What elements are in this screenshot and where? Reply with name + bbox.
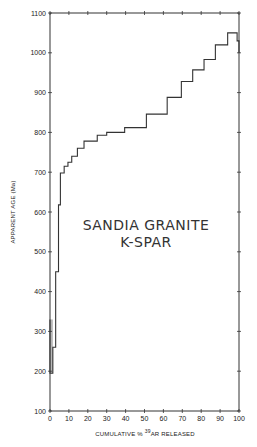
y-tick-label: 1100 — [31, 10, 46, 17]
y-tick-label: 800 — [34, 129, 46, 136]
plot-frame — [50, 13, 239, 411]
x-axis-title-pre: CUMULATIVE % — [95, 431, 145, 437]
y-tick-label: 400 — [34, 288, 46, 295]
y-tick-label: 600 — [34, 209, 46, 216]
y-tick-label: 500 — [34, 248, 46, 255]
y-tick-label: 1000 — [30, 49, 46, 56]
y-tick-label: 100 — [34, 408, 46, 415]
x-tick-label: 90 — [216, 415, 224, 422]
x-tick-label: 30 — [103, 415, 111, 422]
x-tick-label: 100 — [233, 415, 245, 422]
x-tick-label: 40 — [122, 415, 130, 422]
y-axis-title: APPARENT AGE (Ma) — [10, 180, 16, 243]
y-tick-label: 700 — [34, 169, 46, 176]
y-axis-ticks: 10020030040050060070080090010001100 — [30, 10, 241, 415]
x-axis-title: CUMULATIVE % 39AR RELEASED — [95, 428, 195, 437]
x-axis-title-post: AR RELEASED — [151, 431, 196, 437]
x-tick-label: 10 — [65, 415, 73, 422]
age-spectrum-line — [50, 33, 239, 373]
y-tick-label: 900 — [34, 89, 46, 96]
y-tick-label: 200 — [34, 368, 46, 375]
x-tick-label: 80 — [197, 415, 205, 422]
age-spectrum-chart: 10020030040050060070080090010001100 0102… — [0, 0, 257, 447]
x-tick-label: 50 — [141, 415, 149, 422]
x-tick-label: 60 — [160, 415, 168, 422]
x-tick-label: 0 — [48, 415, 52, 422]
x-tick-label: 70 — [178, 415, 186, 422]
x-tick-label: 20 — [84, 415, 92, 422]
sample-label-line1: SANDIA GRANITE — [83, 217, 210, 233]
sample-label-line2: K-SPAR — [120, 234, 172, 250]
y-tick-label: 300 — [34, 328, 46, 335]
